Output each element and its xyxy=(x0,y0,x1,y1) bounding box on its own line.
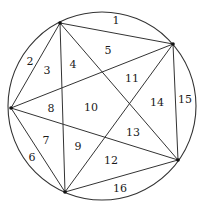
vertex-point-C xyxy=(9,106,13,110)
chord-BD xyxy=(65,44,173,192)
region-label-9: 9 xyxy=(75,140,82,153)
region-label-6: 6 xyxy=(29,151,36,164)
region-label-4: 4 xyxy=(70,58,77,71)
chord-AC xyxy=(11,23,60,108)
region-label-14: 14 xyxy=(150,96,164,109)
region-label-1: 1 xyxy=(113,14,120,27)
region-label-16: 16 xyxy=(113,182,127,195)
region-label-7: 7 xyxy=(43,134,50,147)
region-label-2: 2 xyxy=(27,55,34,68)
outer-circle xyxy=(8,12,196,200)
region-labels: 12345678910111213141516 xyxy=(27,14,193,195)
region-label-5: 5 xyxy=(105,44,112,57)
chord-AD xyxy=(60,23,65,192)
vertex-point-A xyxy=(58,21,62,25)
chord-BC xyxy=(11,44,173,108)
vertex-point-B xyxy=(171,42,175,46)
vertex-point-E xyxy=(176,158,180,162)
vertex-point-D xyxy=(63,190,67,194)
region-label-11: 11 xyxy=(125,72,139,85)
region-label-8: 8 xyxy=(48,102,55,115)
circle-region-diagram: 12345678910111213141516 xyxy=(0,0,201,217)
region-label-12: 12 xyxy=(104,154,118,167)
region-label-15: 15 xyxy=(178,93,192,106)
region-label-13: 13 xyxy=(126,126,140,139)
region-label-10: 10 xyxy=(84,101,98,114)
region-label-3: 3 xyxy=(44,64,51,77)
